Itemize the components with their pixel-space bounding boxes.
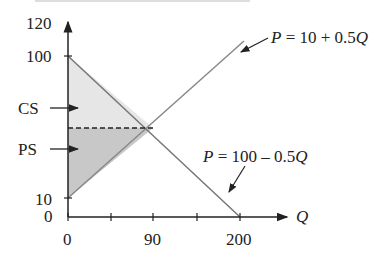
demand-arrow-icon bbox=[229, 166, 245, 192]
cs-label: CS bbox=[18, 99, 39, 118]
x-tick-0: 0 bbox=[63, 230, 72, 249]
y-tick-120: 120 bbox=[26, 14, 52, 33]
supply-arrow-icon bbox=[241, 38, 268, 52]
x-tick-200: 200 bbox=[226, 230, 252, 249]
y-tick-0: 0 bbox=[44, 207, 53, 226]
ps-label: PS bbox=[18, 140, 37, 159]
x-tick-90: 90 bbox=[144, 230, 161, 249]
x-axis-label: Q bbox=[296, 207, 308, 226]
y-tick-100: 100 bbox=[26, 47, 52, 66]
consumer-surplus-area bbox=[68, 56, 153, 128]
supply-demand-chart: 120 100 10 0 0 90 200 Q CS PS P = 10 + 0… bbox=[0, 0, 391, 257]
supply-equation: P = 10 + 0.5Q bbox=[270, 28, 368, 47]
demand-equation: P = 100 – 0.5Q bbox=[202, 147, 308, 166]
cropped-caption bbox=[35, 0, 250, 2]
